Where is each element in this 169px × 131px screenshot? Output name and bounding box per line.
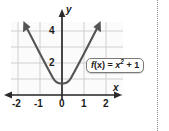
x-tick-label-neg1: -1 bbox=[34, 99, 43, 109]
y-tick-label-4: 4 bbox=[49, 26, 54, 36]
parabola-figure: 4 2 -2 -1 0 1 2 y x f(x) = x2 + 1 bbox=[0, 0, 169, 131]
x-tick-label-neg2: -2 bbox=[12, 99, 21, 109]
x-tick-label-1: 1 bbox=[81, 99, 86, 109]
callout-arg: (x) = bbox=[94, 60, 115, 70]
function-callout: f(x) = x2 + 1 bbox=[86, 58, 144, 73]
callout-suffix: + 1 bbox=[124, 60, 139, 70]
y-axis-label: y bbox=[66, 5, 72, 15]
page-divider bbox=[157, 0, 158, 131]
x-tick-label-0: 0 bbox=[59, 99, 64, 109]
y-tick-label-2: 2 bbox=[49, 58, 54, 68]
x-axis-label: x bbox=[113, 83, 119, 93]
x-tick-label-2: 2 bbox=[103, 99, 108, 109]
